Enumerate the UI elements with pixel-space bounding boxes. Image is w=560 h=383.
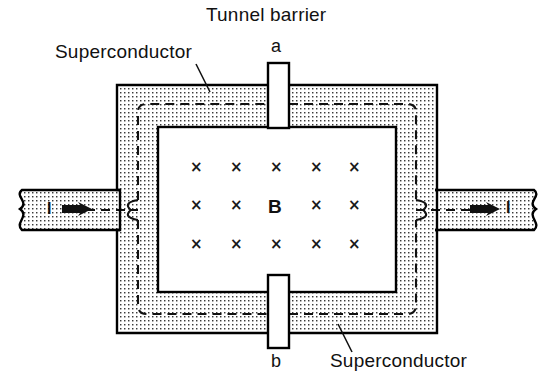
field-mark: × <box>190 160 203 175</box>
label-junction-a: a <box>271 37 281 55</box>
field-mark: × <box>310 160 323 175</box>
title-tunnel-barrier: Tunnel barrier <box>206 5 326 24</box>
label-superconductor-bottom: Superconductor <box>330 351 467 370</box>
field-mark: × <box>348 160 361 175</box>
field-mark: × <box>190 237 203 252</box>
label-current-in: I <box>47 201 51 217</box>
josephson-squid-diagram: Tunnel barrier Superconductor Supercondu… <box>0 0 560 383</box>
field-mark: × <box>270 160 283 175</box>
tunnel-barrier-a[interactable] <box>268 63 289 128</box>
field-mark: × <box>190 198 203 213</box>
field-mark: × <box>230 237 243 252</box>
field-mark: × <box>310 198 323 213</box>
field-mark: × <box>348 237 361 252</box>
field-mark: × <box>270 237 283 252</box>
label-magnetic-field-B: B <box>268 197 282 216</box>
label-junction-b: b <box>271 352 281 370</box>
field-mark: × <box>230 198 243 213</box>
field-mark: × <box>310 237 323 252</box>
field-mark: × <box>348 198 361 213</box>
field-mark: × <box>230 160 243 175</box>
label-current-out: I <box>506 200 507 216</box>
label-superconductor-top: Superconductor <box>55 42 192 61</box>
tunnel-barrier-b[interactable] <box>268 275 289 348</box>
